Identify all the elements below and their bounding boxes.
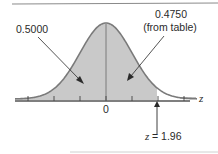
axis-variable-label: z [198, 92, 204, 104]
zero-tick-label: 0 [103, 103, 109, 115]
right-area-value: 0.4750 [155, 8, 187, 20]
right-area-note: (from table) [143, 21, 197, 33]
left-arrow-line [38, 37, 80, 80]
z-value-arrow-head [154, 101, 160, 107]
top-border [12, 3, 218, 4]
normal-curve-diagram: 0 z 0.5000 0.4750 (from table) z = 1.96 [0, 0, 218, 154]
left-area-label: 0.5000 [16, 23, 48, 35]
z-value-label: = 1.96 [152, 130, 182, 142]
right-arrow-line [131, 36, 164, 76]
z-value-prefix: z [144, 130, 150, 142]
